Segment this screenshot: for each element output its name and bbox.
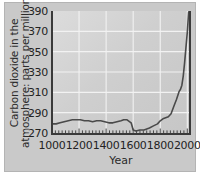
y-tick-label: 390 xyxy=(22,5,48,18)
y-axis-spine xyxy=(51,11,53,134)
y-tick-label: 310 xyxy=(22,86,48,99)
chart-canvas xyxy=(52,11,190,133)
plot-area xyxy=(52,11,190,133)
right-axis-spine xyxy=(189,11,191,134)
x-tick-label: 1600 xyxy=(120,139,147,152)
x-tick-label: 1800 xyxy=(147,139,174,152)
x-tick-label: 1400 xyxy=(93,139,120,152)
y-tick-label: 350 xyxy=(22,45,48,58)
y-tick-label: 330 xyxy=(22,66,48,79)
x-tick-label: 1200 xyxy=(66,139,93,152)
x-tick-label: 2000 xyxy=(174,139,200,152)
x-axis-spine xyxy=(51,133,191,135)
x-axis-tick-labels: 100012001400160018002000 xyxy=(52,139,190,153)
y-tick-label: 290 xyxy=(22,106,48,119)
y-tick-label: 270 xyxy=(22,127,48,140)
x-axis-label: Year xyxy=(52,154,190,167)
x-tick-label: 1000 xyxy=(39,139,66,152)
y-tick-label: 370 xyxy=(22,25,48,38)
co2-chart-figure: Carbon dioxide in the atmosphere: parts … xyxy=(0,0,200,177)
